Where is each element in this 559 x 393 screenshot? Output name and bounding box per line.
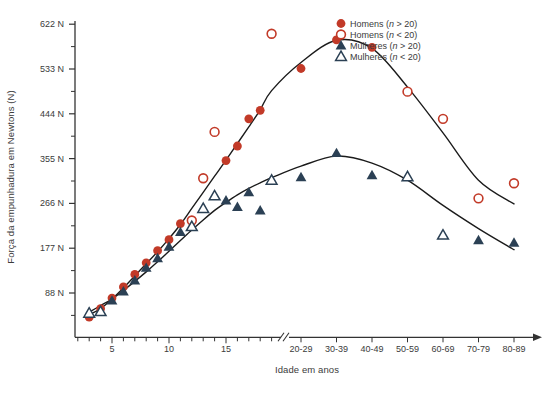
data-point-circle-open [474,194,483,203]
axes [75,21,542,341]
legend-circle-open-icon [337,30,346,39]
data-point-triangle-filled [255,205,266,214]
x-tick-label: 80-89 [502,344,525,354]
y-axis-title: Força da empunhadura em Newtons (N) [5,90,16,264]
data-point-triangle-open [209,190,220,199]
legend-label: Homens (n < 20) [350,30,417,40]
data-point-triangle-filled [232,202,243,211]
data-point-triangle-filled [367,170,378,179]
data-point-triangle-filled [473,235,484,244]
y-tick-label: 355 N [40,154,64,164]
x-tick-label: 40-49 [360,344,383,354]
data-point-circle-open [403,87,412,96]
legend-circle-filled-icon [337,19,346,28]
y-tick-label: 444 N [40,109,64,119]
x-tick-label: 10 [164,344,174,354]
axis-break-mark [283,333,289,342]
data-point-circle-open [199,174,208,183]
data-point-circle-filled [176,219,185,228]
figure-canvas: 88 N177 N266 N355 N444 N533 N622 N510152… [0,0,559,393]
x-tick-label: 50-59 [396,344,419,354]
data-point-circle-open [439,114,448,123]
data-point-circle-filled [256,106,265,115]
data-point-circle-filled [222,156,231,165]
data-point-triangle-filled [243,187,254,196]
series-mulheres-n-20- [84,171,449,317]
legend-label: Mulheres (n > 20) [350,41,421,51]
data-point-triangle-open [402,171,413,180]
x-tick-label: 30-39 [325,344,348,354]
data-point-circle-filled [244,114,253,123]
x-tick-label: 5 [109,344,114,354]
data-point-circle-filled [297,64,306,73]
y-tick-label: 533 N [40,64,64,74]
data-point-triangle-open [438,230,449,239]
y-tick-label: 266 N [40,198,64,208]
x-tick-label: 15 [221,344,231,354]
y-tick-label: 88 N [45,288,64,298]
data-point-triangle-open [198,203,209,212]
x-tick-label: 60-69 [431,344,454,354]
data-point-circle-open [210,128,219,137]
data-point-triangle-filled [509,237,520,246]
data-point-triangle-filled [331,148,342,157]
data-point-circle-open [510,179,519,188]
x-tick-label: 70-79 [467,344,490,354]
data-point-circle-filled [233,142,242,151]
series-mulheres-n-20- [107,148,520,305]
y-tick-label: 622 N [40,19,64,29]
y-ticks: 88 N177 N266 N355 N444 N533 N622 N [40,19,75,315]
x-ticks: 5101520-2930-3940-4950-5960-6970-7980-89 [78,337,526,354]
x-tick-label: 20-29 [289,344,312,354]
data-point-triangle-filled [175,227,186,236]
legend-label: Mulheres (n < 20) [350,52,421,62]
y-tick-label: 177 N [40,243,64,253]
x-axis-arrow-icon [533,334,542,342]
data-point-triangle-filled [296,172,307,181]
grip-strength-chart: 88 N177 N266 N355 N444 N533 N622 N510152… [0,0,559,393]
legend-label: Homens (n > 20) [350,19,417,29]
series-homens-n-20- [85,35,377,321]
x-axis-title: Idade em anos [275,364,339,375]
data-point-circle-open [267,29,276,38]
legend-triangle-open-icon [336,51,347,60]
